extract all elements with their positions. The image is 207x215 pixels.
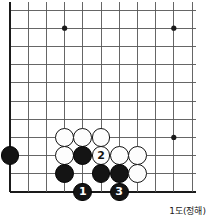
stone-white [110, 146, 129, 165]
go-diagram: 213 1도(정해) [0, 0, 207, 215]
stone-move-number: 2 [97, 150, 105, 161]
stone-move-number: 1 [79, 186, 87, 197]
stone-black-move-3: 3 [110, 183, 129, 202]
stone-white [55, 146, 74, 165]
stone-black [110, 164, 129, 183]
stone-white [55, 128, 74, 147]
diagram-caption: 1도(정해) [169, 206, 206, 215]
stone-white [128, 146, 147, 165]
stone-move-number: 3 [115, 186, 123, 197]
stone-white [73, 128, 92, 147]
stone-white [128, 164, 147, 183]
stone-white [92, 128, 111, 147]
